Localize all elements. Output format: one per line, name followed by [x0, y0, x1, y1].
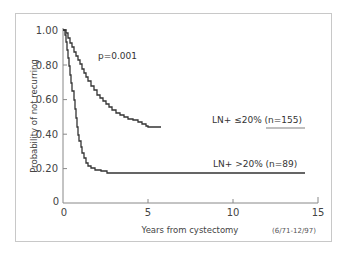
- x-axis-label: Years from cystectomy: [141, 225, 239, 235]
- legend-label-ln-le-20: LN+ ≤20% (n=155): [212, 115, 302, 125]
- y-ticks: [63, 30, 67, 169]
- date-range-note: (6/71-12/97): [272, 227, 316, 235]
- x-ticks: [148, 197, 318, 203]
- x-tick-label: 0: [61, 207, 67, 218]
- series-ln-le-20-curve: [63, 30, 161, 127]
- survival-chart: 1.00 0.80 0.60 0.40 0.20 0 0 5 10 15 Pro…: [0, 0, 344, 257]
- y-tick-label: 1.00: [36, 25, 58, 36]
- y-tick-label: 0.60: [36, 94, 58, 105]
- y-tick-label: 0: [53, 196, 59, 207]
- y-tick-label: 0.80: [36, 60, 58, 71]
- x-tick-label: 15: [312, 207, 325, 218]
- x-tick-label: 10: [227, 207, 240, 218]
- legend-label-ln-gt-20: LN+ >20% (n=89): [213, 159, 297, 169]
- y-tick-label: 0.20: [36, 163, 58, 174]
- x-tick-label: 5: [145, 207, 151, 218]
- y-tick-label: 0.40: [36, 129, 58, 140]
- p-value-annotation: p=0.001: [98, 51, 137, 61]
- y-axis-label: Probability of not recurring: [29, 59, 39, 173]
